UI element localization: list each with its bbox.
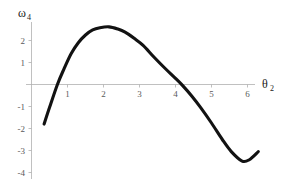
x-axis-title-symbol: θ (262, 77, 268, 91)
x-tick-label: 2 (101, 89, 106, 99)
y-axis-title-subscript: 4 (27, 13, 31, 22)
y-tick-label: -1 (18, 102, 26, 112)
y-tick-label: 1 (21, 58, 26, 68)
x-tick-labels: 1 2 3 4 5 6 (65, 89, 250, 99)
y-tick-labels: 2 1 -1 -2 -3 -4 (18, 36, 26, 178)
x-tick-label: 3 (137, 89, 142, 99)
x-tick-label: 1 (65, 89, 70, 99)
y-tick-label: -3 (18, 146, 26, 156)
plot-canvas: 1 2 3 4 5 6 2 1 -1 -2 -3 -4 ω 4 θ 2 (0, 0, 293, 192)
x-tick-label: 4 (173, 89, 178, 99)
plot-container: 1 2 3 4 5 6 2 1 -1 -2 -3 -4 ω 4 θ 2 (0, 0, 293, 192)
x-tick-label: 5 (209, 89, 214, 99)
x-tick-label: 6 (245, 89, 250, 99)
y-tick-marks (29, 41, 32, 173)
y-axis-title: ω 4 (18, 6, 31, 22)
x-axis-title-subscript: 2 (270, 84, 274, 93)
x-axis-title: θ 2 (262, 77, 274, 93)
data-curve (44, 27, 258, 162)
y-tick-label: -4 (18, 168, 26, 178)
x-tick-marks (68, 85, 248, 88)
y-tick-label: -2 (18, 124, 26, 134)
y-tick-label: 2 (21, 36, 26, 46)
y-axis-title-symbol: ω (18, 6, 26, 20)
